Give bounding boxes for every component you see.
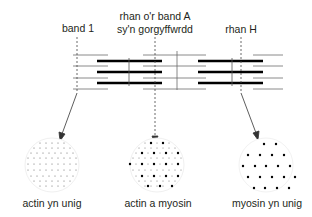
cross-section-myosin-only (239, 138, 296, 192)
cross-section-label-myosin-only: myosin yn unig (224, 197, 310, 209)
pointer-arrows (59, 93, 259, 144)
cross-section-label-actin-only: actin yn unig (10, 197, 94, 209)
sarcomere-diagram (0, 0, 312, 217)
cross-section-actin-only (25, 138, 79, 192)
thick-filaments (97, 61, 263, 83)
cross-section-label-actin-myosin: actin a myosin (113, 197, 203, 209)
cross-section-actin-myosin (129, 138, 184, 192)
arrow-head-right (253, 131, 259, 140)
